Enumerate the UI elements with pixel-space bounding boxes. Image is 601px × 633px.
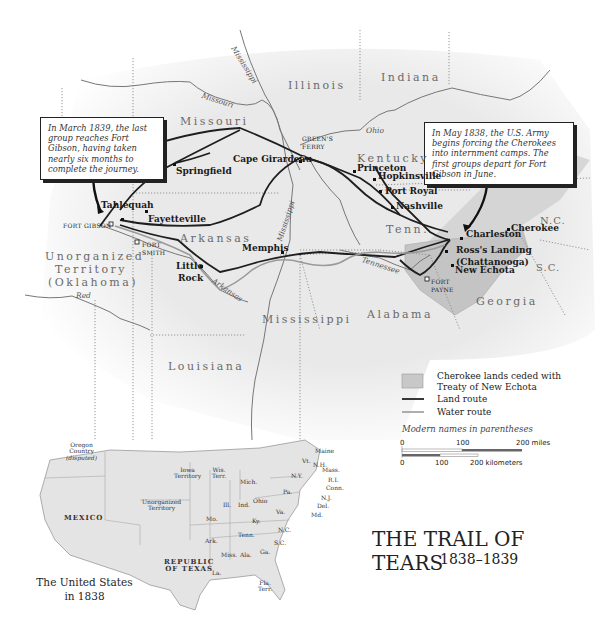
inset-maine: Maine [315, 448, 334, 454]
inset-caption-line-1: The United States [22, 575, 147, 589]
inset-unorg-2: Territory [142, 505, 181, 511]
inset-ny: N.Y. [291, 473, 303, 479]
territory-label-3: (Oklahoma) [48, 277, 138, 288]
inset-fla-2: Terr. [258, 586, 272, 592]
state-mississippi: Mississippi [262, 314, 352, 325]
state-tennessee: Tenn. [386, 224, 429, 235]
inset-nj: N.J. [321, 495, 332, 501]
state-louisiana: Louisiana [168, 361, 244, 372]
fort-gibson-label: FORT GIBSON [63, 223, 112, 229]
city-cape-girardeau: Cape Girardeau [233, 155, 312, 164]
inset-mass: Mass. [322, 467, 340, 473]
inset-mich: Mich. [240, 479, 257, 485]
inset-unorganized: Unorganized Territory [142, 499, 181, 512]
city-new-echota: New Echota [455, 266, 515, 275]
scale-km-0: 0 [400, 459, 404, 467]
inset-ind: Ind. [238, 502, 250, 508]
inset-ohio: Ohio [253, 498, 267, 504]
state-south-carolina: S.C. [536, 263, 560, 273]
inset-ill: Ill. [223, 502, 231, 508]
greens-ferry-label-1: GREEN'S [302, 136, 333, 142]
inset-oregon-3: (disputed) [66, 455, 97, 461]
inset-caption-line-2: in 1838 [22, 589, 147, 603]
greens-ferry-label-2: FERRY [302, 144, 325, 150]
inset-caption: The United States in 1838 [22, 575, 147, 603]
city-springfield: Springfield [176, 167, 232, 176]
legend-note: Modern names in parentheses [402, 424, 533, 434]
inset-ala: Ala. [240, 552, 252, 558]
city-tahlequah: Tahlequah [101, 201, 154, 210]
state-georgia: Georgia [476, 296, 538, 307]
inset-iowa-2: Territory [174, 473, 201, 479]
fort-smith-label-1: FORT [142, 242, 161, 248]
fort-payne-label-2: PAYNE [431, 287, 454, 293]
inset-iowa: Iowa Territory [174, 467, 201, 480]
inset-ky: Ky. [252, 518, 261, 524]
inset-vt: Vt. [302, 458, 311, 464]
city-little-rock-1: Little [176, 262, 203, 271]
inset-va: Va. [276, 509, 285, 515]
scale-km-100: 100 [435, 459, 448, 467]
city-fayetteville: Fayetteville [148, 215, 206, 224]
callout-east-text: In May 1838, the U.S. Army begins forcin… [432, 128, 556, 179]
river-ohio: Ohio [366, 127, 384, 135]
inset-fla: Fla. Terr. [258, 580, 272, 593]
inset-mo: Mo. [206, 516, 218, 522]
inset-la: La. [212, 570, 221, 576]
ceded-lands-swatch [402, 374, 423, 388]
callout-west: In March 1839, the last group reaches Fo… [40, 117, 164, 180]
state-missouri: Missouri [180, 116, 249, 127]
inset-del: Del. [317, 503, 329, 509]
callout-east: In May 1838, the U.S. Army begins forcin… [424, 122, 574, 185]
inset-ark: Ark. [205, 538, 218, 544]
scale-miles-100: 100 [456, 439, 469, 447]
inset-texas-2: OF TEXAS [164, 565, 214, 572]
inset-wisconsin: Wis. Terr. [212, 467, 226, 480]
inset-oregon: Oregon Country (disputed) [66, 442, 97, 461]
fort-payne-label-1: FORT [431, 279, 450, 285]
river-red: Red [76, 292, 91, 300]
inset-tenn: Tenn. [238, 532, 255, 538]
scale-km-200: 200 kilometers [470, 459, 523, 467]
city-little-rock-2: Rock [178, 274, 203, 283]
inset-conn: Conn. [326, 485, 344, 491]
city-memphis: Memphis [242, 244, 289, 253]
scale-miles-0: 0 [400, 439, 404, 447]
fort-smith-label-2: SMITH [142, 250, 165, 256]
inset-wis-2: Terr. [212, 473, 226, 479]
state-indiana: Indiana [381, 72, 441, 83]
inset-mexico: MEXICO [64, 514, 103, 521]
inset-texas: REPUBLIC OF TEXAS [164, 558, 214, 573]
city-hopkinsville: Hopkinsville [378, 172, 441, 181]
scale-miles-200: 200 miles [516, 439, 550, 447]
legend-ceded-line-1: Cherokee lands ceded with [437, 371, 561, 381]
inset-ga: Ga. [260, 549, 270, 555]
legend-ceded-line-2: Treaty of New Echota [437, 382, 537, 392]
inset-nc: N.C. [278, 527, 291, 533]
territory-label-2: Territory [55, 264, 127, 275]
city-cherokee: Cherokee [511, 224, 559, 233]
inset-miss: Miss. [221, 552, 237, 558]
legend-water-route: Water route [437, 407, 491, 417]
map-subtitle-years: 1838–1839 [440, 551, 518, 567]
inset-sc: S.C. [274, 540, 286, 546]
legend-land-route: Land route [437, 394, 487, 404]
callout-west-text: In March 1839, the last group reaches Fo… [48, 123, 147, 174]
inset-pa: Pa. [283, 489, 292, 495]
state-arkansas: Arkansas [180, 233, 251, 244]
inset-ri: R.I. [328, 477, 339, 483]
city-nashville: Nashville [396, 202, 443, 211]
state-alabama: Alabama [367, 309, 433, 320]
territory-label-1: Unorganized [45, 251, 144, 262]
inset-md: Md. [311, 512, 323, 518]
city-ross-landing-1: Ross's Landing [456, 246, 532, 255]
city-port-royal: Port Royal [385, 187, 438, 196]
state-illinois: Illinois [288, 80, 346, 91]
scale-bar [402, 446, 522, 458]
